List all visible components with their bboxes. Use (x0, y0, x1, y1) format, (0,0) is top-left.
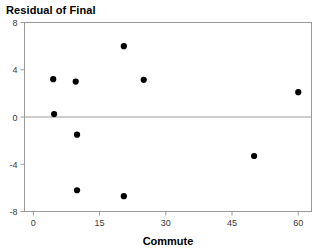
x-tick-label: 0 (31, 218, 36, 228)
axis-ticks (21, 23, 299, 216)
data-point (51, 111, 57, 117)
data-point (73, 78, 79, 84)
residual-scatter-chart: Residual of Final 015304560 840-4-8 Comm… (0, 0, 317, 250)
data-points (50, 43, 301, 199)
y-tick-label: 4 (12, 65, 17, 75)
x-tick-label: 45 (227, 218, 237, 228)
y-tick-label: -4 (9, 160, 17, 170)
y-tick-label: -8 (9, 207, 17, 217)
data-point (121, 43, 127, 49)
x-tick-label: 15 (95, 218, 105, 228)
y-tick-label: 8 (12, 18, 17, 28)
x-axis-tick-labels: 015304560 (31, 218, 303, 228)
x-axis-title: Commute (143, 235, 194, 247)
x-tick-label: 30 (161, 218, 171, 228)
data-point (74, 187, 80, 193)
data-point (74, 132, 80, 138)
data-point (141, 77, 147, 83)
data-point (50, 76, 56, 82)
data-point (251, 153, 257, 159)
data-point (295, 89, 301, 95)
plot-area: 015304560 840-4-8 Commute (0, 0, 317, 250)
y-tick-label: 0 (12, 113, 17, 123)
x-tick-label: 60 (293, 218, 303, 228)
y-axis-tick-labels: 840-4-8 (9, 18, 17, 217)
data-point (121, 193, 127, 199)
